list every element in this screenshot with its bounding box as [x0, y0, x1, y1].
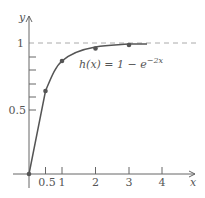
x-tick-label: 0.5: [38, 176, 56, 189]
x-tick-label: 1: [59, 176, 66, 189]
x-axis-label: x: [190, 176, 197, 189]
x-ticks: [46, 167, 163, 174]
x-tick-label: 2: [92, 176, 99, 189]
y-tick-label: 1: [17, 37, 24, 50]
function-label: h(x) = 1 − e−2x: [79, 56, 164, 71]
chart: 0.5 1 2 3 4 x 0.5 1 y h(x) = 1 − e−2x: [0, 0, 205, 198]
x-tick-label: 4: [159, 176, 166, 189]
x-tick-label: 3: [126, 176, 133, 189]
y-ticks: [29, 57, 36, 110]
y-axis-label: y: [18, 11, 26, 24]
y-tick-label: 0.5: [9, 104, 27, 117]
